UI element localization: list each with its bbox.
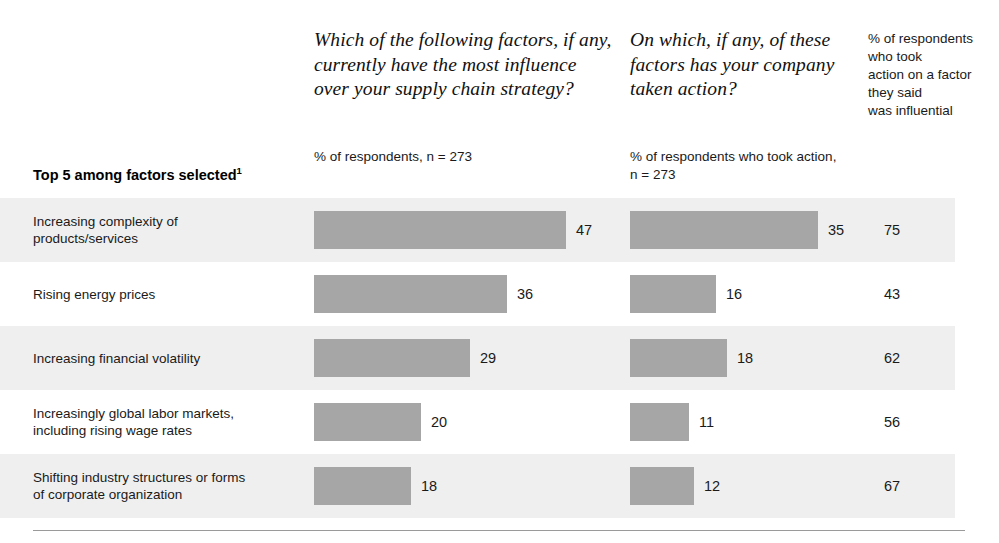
table-row: Increasingly global labor markets,includ… <box>0 390 955 454</box>
row-group-title: Top 5 among factors selected1 <box>33 167 242 183</box>
bar-value-series-1: 29 <box>480 350 496 366</box>
column-3-value: 75 <box>884 222 900 238</box>
bar-value-series-2: 18 <box>737 350 753 366</box>
row-label-line-1: Increasing financial volatility <box>33 350 303 367</box>
column-3-value: 67 <box>884 478 900 494</box>
row-label: Increasing complexity ofproducts/service… <box>33 213 303 247</box>
question-2-title: On which, if any, of these factors has y… <box>630 28 845 102</box>
bar-value-series-1: 47 <box>576 222 592 238</box>
column-3-heading-line-1: % of respondents <box>868 30 993 48</box>
chart-rows: Increasing complexity ofproducts/service… <box>0 198 999 518</box>
question-1-note: % of respondents, n = 273 <box>314 148 614 166</box>
column-3-heading-line-3: action on a factor <box>868 66 993 84</box>
row-label-line-1: Rising energy prices <box>33 286 303 303</box>
bar-value-series-1: 18 <box>421 478 437 494</box>
bar-value-series-2: 12 <box>704 478 720 494</box>
table-row: Increasing complexity ofproducts/service… <box>0 198 955 262</box>
column-3-value: 43 <box>884 286 900 302</box>
row-label: Shifting industry structures or formsof … <box>33 469 303 503</box>
column-3-value: 62 <box>884 350 900 366</box>
bar-value-series-2: 16 <box>726 286 742 302</box>
bar-series-2 <box>630 403 689 441</box>
row-label: Increasingly global labor markets,includ… <box>33 405 303 439</box>
row-group-title-footnote: 1 <box>237 165 242 176</box>
row-label-line-2: products/services <box>33 230 303 247</box>
bar-value-series-2: 35 <box>828 222 844 238</box>
column-3-value: 56 <box>884 414 900 430</box>
bar-value-series-2: 11 <box>699 414 714 430</box>
row-label-line-2: including rising wage rates <box>33 422 303 439</box>
column-3-heading-line-2: who took <box>868 48 993 66</box>
row-label-line-2: of corporate organization <box>33 486 303 503</box>
question-1-title: Which of the following factors, if any, … <box>314 28 614 102</box>
column-3-heading-line-4: they said <box>868 84 993 102</box>
bar-value-series-1: 36 <box>517 286 533 302</box>
question-2-note: % of respondents who took action, n = 27… <box>630 148 840 184</box>
row-label-line-1: Increasing complexity of <box>33 213 303 230</box>
row-label-line-1: Increasingly global labor markets, <box>33 405 303 422</box>
bar-series-1 <box>314 339 470 377</box>
row-label: Increasing financial volatility <box>33 350 303 367</box>
bar-series-1 <box>314 275 507 313</box>
table-row: Shifting industry structures or formsof … <box>0 454 955 518</box>
bar-series-2 <box>630 339 727 377</box>
column-3-heading-line-5: was influential <box>868 102 993 120</box>
column-3-heading: % of respondents who took action on a fa… <box>868 30 993 120</box>
bar-series-2 <box>630 211 818 249</box>
table-row: Rising energy prices361643 <box>0 262 955 326</box>
footer-divider <box>33 530 965 531</box>
bar-series-1 <box>314 211 566 249</box>
table-row: Increasing financial volatility291862 <box>0 326 955 390</box>
bar-series-1 <box>314 467 411 505</box>
row-label-line-1: Shifting industry structures or forms <box>33 469 303 486</box>
chart-header: Which of the following factors, if any, … <box>0 0 999 198</box>
bar-series-2 <box>630 467 694 505</box>
row-group-title-text: Top 5 among factors selected <box>33 167 237 183</box>
bar-series-2 <box>630 275 716 313</box>
row-label: Rising energy prices <box>33 286 303 303</box>
bar-series-1 <box>314 403 421 441</box>
bar-value-series-1: 20 <box>431 414 447 430</box>
